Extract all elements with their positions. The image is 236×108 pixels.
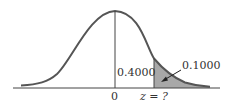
z-label: z = ? — [139, 90, 168, 103]
center-area-label: 0.4000 — [117, 66, 156, 79]
tail-area-label: 0.1000 — [182, 59, 221, 72]
mean-label: 0 — [111, 90, 118, 103]
normal-curve-diagram: 0.4000 0.1000 0 z = ? — [0, 0, 236, 108]
